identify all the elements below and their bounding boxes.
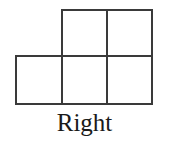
cell-top-right [107,10,152,56]
cell-bottom-left [16,56,62,104]
figure-caption-label: Right [0,108,169,138]
polyomino-figure: Right [0,0,169,143]
cell-top-middle [62,10,107,56]
cell-bottom-middle [62,56,107,104]
cell-bottom-right [107,56,152,104]
